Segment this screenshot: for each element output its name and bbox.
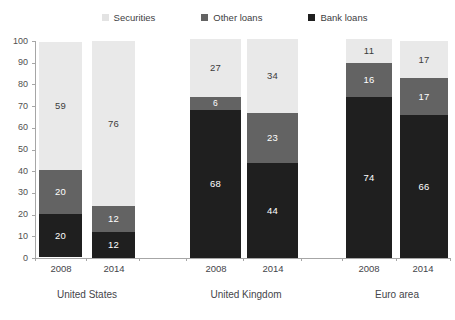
- x-tick-mark: [86, 258, 87, 261]
- segment-bank-loans[interactable]: 44: [247, 163, 298, 258]
- segment-bank-loans[interactable]: 68: [190, 110, 241, 258]
- segment-value-label: 34: [267, 71, 278, 81]
- x-tick-mark: [450, 258, 451, 261]
- y-tick-mark: [32, 150, 35, 151]
- group-label-euro-area: Euro area: [375, 289, 419, 300]
- segment-securities[interactable]: 76: [92, 41, 135, 206]
- y-tick-mark: [32, 171, 35, 172]
- segment-value-label: 20: [55, 187, 66, 197]
- x-tick-mark: [301, 258, 302, 261]
- square-marker-icon: [201, 14, 208, 21]
- segment-bank-loans[interactable]: 74: [346, 97, 392, 258]
- y-tick-mark: [32, 236, 35, 237]
- segment-bank-loans[interactable]: 12: [92, 232, 135, 258]
- y-tick-label-10: 10: [2, 232, 28, 241]
- segment-value-label: 12: [108, 214, 119, 224]
- legend-item-bank-loans[interactable]: Bank loans: [308, 12, 367, 23]
- x-tick-mark: [35, 258, 36, 261]
- y-tick-label-0: 0: [2, 254, 28, 263]
- segment-other-loans[interactable]: 6: [190, 97, 241, 110]
- segment-securities[interactable]: 27: [190, 39, 241, 98]
- x-tick-label-ea-2008: 2008: [358, 263, 379, 274]
- x-tick-label-uk-2014: 2014: [262, 263, 283, 274]
- segment-value-label: 59: [55, 101, 66, 111]
- plot-area: 100 90 80 70 60 50 40 30 20 10 0 59 20 2: [35, 41, 451, 258]
- stacked-bar-chart: Securities Other loans Bank loans 100 90…: [0, 0, 455, 320]
- segment-bank-loans[interactable]: 66: [400, 115, 448, 258]
- segment-value-label: 66: [419, 182, 430, 192]
- bar-euro-area-2008[interactable]: 11 16 74: [346, 39, 392, 258]
- y-tick-mark: [32, 106, 35, 107]
- y-tick-label-60: 60: [2, 123, 28, 132]
- x-tick-mark: [396, 258, 397, 261]
- segment-value-label: 11: [364, 46, 374, 56]
- legend-label-securities: Securities: [114, 12, 156, 23]
- segment-bank-loans[interactable]: 20: [39, 214, 82, 257]
- y-tick-mark: [32, 128, 35, 129]
- square-marker-icon: [308, 14, 315, 21]
- segment-securities[interactable]: 59: [39, 42, 82, 170]
- group-label-united-states: United States: [57, 289, 117, 300]
- segment-value-label: 23: [267, 133, 278, 143]
- segment-other-loans[interactable]: 16: [346, 63, 392, 98]
- segment-other-loans[interactable]: 23: [247, 113, 298, 163]
- segment-securities[interactable]: 34: [247, 39, 298, 113]
- x-tick-mark: [342, 258, 343, 261]
- y-tick-label-80: 80: [2, 80, 28, 89]
- x-tick-mark: [186, 258, 187, 261]
- y-tick-label-20: 20: [2, 210, 28, 219]
- x-tick-label-uk-2008: 2008: [205, 263, 226, 274]
- segment-securities[interactable]: 11: [346, 39, 392, 63]
- segment-securities[interactable]: 17: [400, 41, 448, 78]
- bar-united-states-2014[interactable]: 76 12 12: [92, 41, 135, 258]
- square-marker-icon: [102, 14, 109, 21]
- x-tick-label-us-2008: 2008: [50, 263, 71, 274]
- segment-other-loans[interactable]: 20: [39, 170, 82, 213]
- y-axis-line: [35, 41, 36, 258]
- bar-united-kingdom-2008[interactable]: 27 6 68: [190, 39, 241, 258]
- bar-united-states-2008[interactable]: 59 20 20: [39, 42, 82, 258]
- chart-legend: Securities Other loans Bank loans: [0, 9, 455, 25]
- segment-other-loans[interactable]: 12: [92, 206, 135, 232]
- segment-value-label: 68: [210, 179, 221, 189]
- segment-value-label: 20: [55, 231, 66, 241]
- segment-value-label: 44: [267, 206, 278, 216]
- x-tick-mark: [243, 258, 244, 261]
- y-tick-mark: [32, 193, 35, 194]
- segment-value-label: 27: [210, 63, 221, 73]
- y-tick-label-30: 30: [2, 188, 28, 197]
- segment-value-label: 17: [419, 55, 430, 65]
- segment-other-loans[interactable]: 17: [400, 78, 448, 115]
- group-label-united-kingdom: United Kingdom: [210, 289, 281, 300]
- segment-value-label: 12: [108, 240, 119, 250]
- y-tick-label-100: 100: [2, 37, 28, 46]
- legend-item-other-loans[interactable]: Other loans: [201, 12, 262, 23]
- x-tick-label-ea-2014: 2014: [412, 263, 433, 274]
- y-tick-label-40: 40: [2, 167, 28, 176]
- y-tick-mark: [32, 41, 35, 42]
- bar-euro-area-2014[interactable]: 17 17 66: [400, 41, 448, 258]
- y-tick-mark: [32, 215, 35, 216]
- segment-value-label: 6: [213, 99, 218, 109]
- x-tick-label-us-2014: 2014: [103, 263, 124, 274]
- y-tick-mark: [32, 63, 35, 64]
- legend-label-bank-loans: Bank loans: [320, 12, 367, 23]
- segment-value-label: 76: [108, 119, 119, 129]
- bar-united-kingdom-2014[interactable]: 34 23 44: [247, 39, 298, 258]
- segment-value-label: 74: [364, 173, 375, 183]
- segment-value-label: 17: [419, 92, 430, 102]
- y-tick-mark: [32, 84, 35, 85]
- y-tick-label-90: 90: [2, 58, 28, 67]
- legend-item-securities[interactable]: Securities: [102, 12, 156, 23]
- x-tick-mark: [139, 258, 140, 261]
- segment-value-label: 16: [364, 75, 375, 85]
- y-tick-label-70: 70: [2, 102, 28, 111]
- y-tick-label-50: 50: [2, 145, 28, 154]
- legend-label-other-loans: Other loans: [213, 12, 262, 23]
